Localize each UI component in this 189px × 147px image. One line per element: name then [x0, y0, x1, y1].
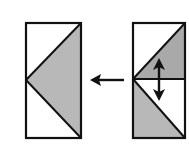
left-arrow-icon [90, 74, 124, 86]
result-shaded-triangle [26, 23, 81, 138]
result-block [26, 23, 81, 138]
quilt-block-diagram [0, 0, 189, 147]
